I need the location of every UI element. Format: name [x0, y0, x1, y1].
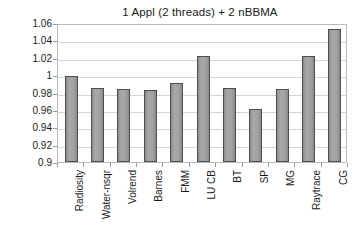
x-axis-tick-label: BT	[232, 170, 243, 235]
y-axis-tick-label: 0.92	[6, 141, 52, 151]
y-axis-tick-label: 0.94	[6, 123, 52, 133]
x-axis: RadiosityWater-nsqrVolrendBarnesFMMLU CB…	[57, 163, 347, 235]
chart-title: 1 Appl (2 threads) + 2 nBBMA	[55, 5, 345, 19]
x-axis-tick-mark	[162, 163, 163, 167]
bar	[302, 56, 315, 162]
x-axis-tick-mark	[57, 163, 58, 167]
x-axis-tick-mark	[189, 163, 190, 167]
y-axis-tick-label: 0.98	[6, 89, 52, 99]
x-axis-tick-mark	[268, 163, 269, 167]
x-axis-tick-label: SP	[259, 170, 270, 235]
x-axis-tick-label: Raytrace	[311, 170, 322, 235]
bar	[197, 56, 210, 162]
x-axis-tick-mark	[83, 163, 84, 167]
gridline	[58, 42, 346, 43]
x-axis-tick-mark	[110, 163, 111, 167]
bar	[276, 89, 289, 162]
x-axis-tick-label: LU CB	[206, 170, 217, 235]
x-axis-tick-label: Barnes	[153, 170, 164, 235]
y-axis-tick-label: 1.06	[6, 19, 52, 29]
x-axis-tick-label: Water-nsqr	[101, 170, 112, 235]
x-axis-tick-label: Volrend	[127, 170, 138, 235]
x-axis-tick-mark	[294, 163, 295, 167]
x-axis-tick-label: Radiosity	[74, 170, 85, 235]
bar	[328, 29, 341, 162]
y-axis-tick-label: 1	[6, 71, 52, 81]
y-axis-tick-label: 1.02	[6, 54, 52, 64]
bar	[91, 88, 104, 162]
bar	[65, 76, 78, 162]
x-axis-tick-mark	[242, 163, 243, 167]
x-axis-tick-label: MG	[285, 170, 296, 235]
bar	[223, 88, 236, 162]
x-axis-tick-label: FMM	[180, 170, 191, 235]
y-axis-tick-label: 0.9	[6, 158, 52, 168]
x-axis-tick-mark	[321, 163, 322, 167]
bar	[144, 90, 157, 162]
y-axis-tick-label: 0.96	[6, 106, 52, 116]
x-axis-tick-mark	[215, 163, 216, 167]
y-axis-tick-label: 1.04	[6, 36, 52, 46]
bar	[170, 83, 183, 162]
bar	[117, 89, 130, 162]
plot-area	[57, 24, 347, 163]
x-axis-tick-mark	[347, 163, 348, 167]
bar-chart: 1 Appl (2 threads) + 2 nBBMA Slowdown 1.…	[0, 0, 363, 235]
x-axis-tick-mark	[136, 163, 137, 167]
bar	[249, 109, 262, 162]
x-axis-tick-label: CG	[338, 170, 349, 235]
